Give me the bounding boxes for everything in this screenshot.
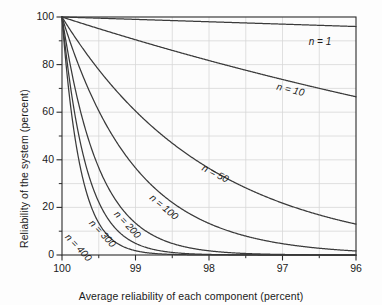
x-tick-label: 100 xyxy=(42,262,82,274)
y-tick-label: 100 xyxy=(14,10,54,22)
y-tick-label: 20 xyxy=(14,200,54,212)
x-axis-title: Average reliability of each component (p… xyxy=(0,290,382,302)
y-tick-label: 0 xyxy=(14,248,54,260)
x-tick-label: 97 xyxy=(263,262,303,274)
curve-label-1: n = 1 xyxy=(309,36,332,47)
reliability-chart-figure: Average reliability of each component (p… xyxy=(0,0,382,305)
x-tick-label: 96 xyxy=(336,262,376,274)
x-tick-label: 98 xyxy=(189,262,229,274)
y-tick-label: 40 xyxy=(14,153,54,165)
y-tick-label: 60 xyxy=(14,105,54,117)
y-tick-label: 80 xyxy=(14,58,54,70)
x-tick-label: 99 xyxy=(116,262,156,274)
